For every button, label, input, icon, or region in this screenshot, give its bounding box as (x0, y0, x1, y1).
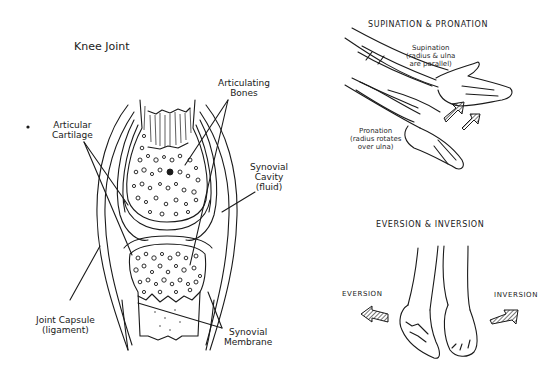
label-synovial-cavity: Synovial Cavity (fluid) (250, 162, 288, 192)
eversion-inversion-drawing (361, 246, 518, 358)
label-eversion: EVERSION (342, 290, 383, 298)
label-articular-cartilage: Articular Cartilage (52, 120, 93, 140)
supination-pronation-title: SUPINATION & PRONATION (368, 20, 488, 29)
label-pronation: Pronation (radius rotates over ulna) (350, 127, 401, 151)
label-synovial-membrane: Synovial Membrane (224, 327, 272, 347)
knee-joint-drawing (70, 100, 255, 350)
label-articulating-bones: Articulating Bones (218, 78, 270, 98)
label-supination: Supination (radius & ulna are parallel) (406, 44, 455, 68)
eversion-inversion-title: EVERSION & INVERSION (376, 220, 484, 229)
knee-joint-title: Knee Joint (74, 40, 130, 53)
label-inversion: INVERSION (494, 291, 538, 299)
label-joint-capsule: Joint Capsule (ligament) (36, 315, 95, 335)
stray-mark (26, 125, 29, 128)
